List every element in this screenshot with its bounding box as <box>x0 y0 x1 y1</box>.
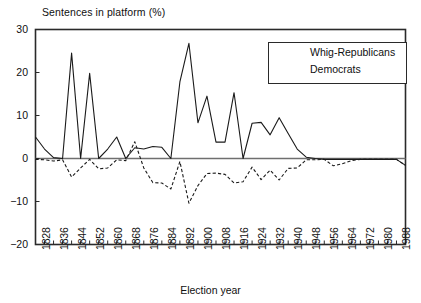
x-axis-tick-label: 1956 <box>328 227 340 250</box>
x-axis-tick-label: 1836 <box>58 227 70 250</box>
x-axis-tick-label: 1900 <box>202 227 214 250</box>
x-axis-tick-label: 1844 <box>76 227 88 250</box>
x-axis-tick-label: 1868 <box>130 227 142 250</box>
x-axis-tick-label: 1852 <box>94 227 106 250</box>
x-axis-tick-label: 1860 <box>112 227 124 250</box>
y-axis-tick-label: 0 <box>4 152 28 164</box>
y-axis-tick-label: 10 <box>4 109 28 121</box>
y-axis-tick-label: 20 <box>4 66 28 78</box>
y-axis-tick-label: −10 <box>4 195 28 207</box>
chart-series-democrats <box>36 142 406 203</box>
x-axis-tick-label: 1892 <box>184 227 196 250</box>
x-axis-tick-label: 1876 <box>148 227 160 250</box>
legend-label: Whig-Republicans <box>310 46 395 58</box>
x-axis-tick-label: 1964 <box>346 227 358 250</box>
x-axis-tick-label: 1828 <box>40 227 52 250</box>
y-axis-tick-label: −20 <box>4 238 28 250</box>
x-axis-tick-label: 1948 <box>310 227 322 250</box>
x-axis-tick-label: 1940 <box>292 227 304 250</box>
y-axis-tick-label: 30 <box>4 23 28 35</box>
chart-figure: Sentences in platform (%) 3020100−10−20 … <box>0 0 421 303</box>
x-axis-tick-label: 1924 <box>256 227 268 250</box>
x-axis-tick-label: 1972 <box>364 227 376 250</box>
x-axis-tick-label: 1908 <box>220 227 232 250</box>
x-axis-tick-label: 1980 <box>382 227 394 250</box>
x-axis-tick-label: 1988 <box>400 227 412 250</box>
legend-label: Democrats <box>310 63 361 75</box>
x-axis-tick-label: 1884 <box>166 227 178 250</box>
x-axis-tick-label: 1932 <box>274 227 286 250</box>
chart-axis-title-x: Election year <box>0 284 421 296</box>
x-axis-tick-label: 1916 <box>238 227 250 250</box>
